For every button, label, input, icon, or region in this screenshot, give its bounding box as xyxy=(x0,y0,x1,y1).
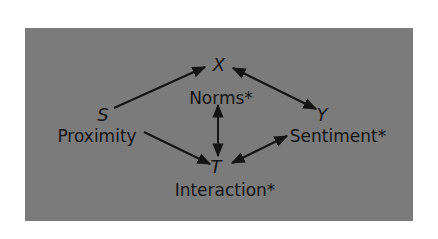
node-t-label: Interaction* xyxy=(175,180,276,200)
causal-diagram: X Norms* S Proximity Y Sentiment* T Inte… xyxy=(0,0,438,239)
node-y-variable: Y xyxy=(317,104,330,125)
node-x-label: Norms* xyxy=(189,88,253,108)
edge-t-y xyxy=(232,136,287,163)
node-t-variable: T xyxy=(211,156,224,177)
node-y-label: Sentiment* xyxy=(290,126,386,146)
node-s-label: Proximity xyxy=(57,126,136,146)
node-x-variable: X xyxy=(212,54,226,75)
edge-s-t xyxy=(144,132,210,164)
node-s-variable: S xyxy=(97,104,108,125)
